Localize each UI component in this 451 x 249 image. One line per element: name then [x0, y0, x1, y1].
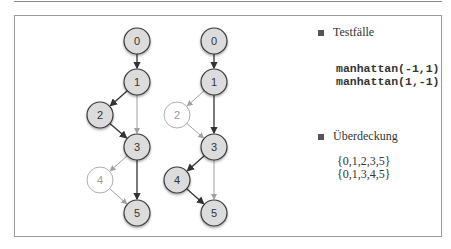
coverage-label: Überdeckung [333, 129, 398, 144]
node-5: 5 [124, 200, 150, 226]
coverage-heading: Überdeckung [318, 129, 398, 144]
svg-text:1: 1 [134, 76, 140, 88]
svg-text:0: 0 [211, 35, 217, 47]
edge-1-2 [110, 91, 127, 106]
svg-text:4: 4 [174, 174, 180, 186]
edge-4-5 [187, 189, 204, 204]
edge-1-2 [187, 91, 204, 106]
testcases-heading: Testfälle [318, 25, 374, 40]
testcases-label: Testfälle [333, 25, 374, 40]
node-2: 2 [164, 102, 190, 128]
control-flow-graphs: 012345012345 [0, 0, 451, 249]
testcase-1: manhattan(-1,1) [336, 62, 440, 75]
svg-text:5: 5 [134, 207, 140, 219]
coverage-sets: {0,1,2,3,5} {0,1,3,4,5} [337, 155, 391, 181]
svg-text:3: 3 [134, 141, 140, 153]
edge-2-3 [187, 124, 204, 138]
edge-2-3 [110, 124, 127, 138]
node-1: 1 [124, 69, 150, 95]
node-1: 1 [201, 69, 227, 95]
edge-3-4 [187, 156, 204, 171]
bullet-square-icon [318, 30, 324, 36]
svg-text:2: 2 [97, 109, 103, 121]
node-3: 3 [201, 134, 227, 160]
svg-text:0: 0 [134, 35, 140, 47]
node-0: 0 [201, 28, 227, 54]
node-2: 2 [87, 102, 113, 128]
testcase-2: manhattan(1,-1) [336, 75, 440, 88]
node-5: 5 [201, 200, 227, 226]
nodes-layer: 012345012345 [87, 28, 227, 226]
svg-text:5: 5 [211, 207, 217, 219]
svg-text:2: 2 [174, 109, 180, 121]
bullet-square-icon [318, 134, 324, 140]
node-4: 4 [164, 167, 190, 193]
svg-text:3: 3 [211, 141, 217, 153]
svg-text:4: 4 [97, 174, 103, 186]
testcases-list: manhattan(-1,1) manhattan(1,-1) [336, 62, 440, 88]
node-4: 4 [87, 167, 113, 193]
edge-4-5 [110, 189, 127, 204]
node-0: 0 [124, 28, 150, 54]
svg-text:1: 1 [211, 76, 217, 88]
node-3: 3 [124, 134, 150, 160]
edge-3-4 [110, 156, 127, 171]
coverage-set-2: {0,1,3,4,5} [337, 168, 391, 181]
